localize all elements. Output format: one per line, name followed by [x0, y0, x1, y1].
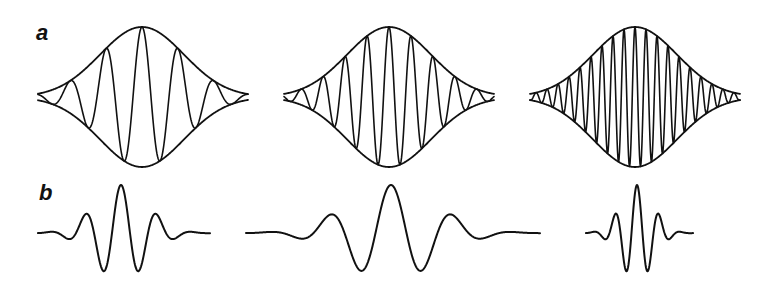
panel-label-b: b	[39, 182, 52, 204]
panel-a-envelope-lower-2	[284, 100, 494, 167]
panel-a-wave-packets	[38, 27, 740, 167]
panel-a-wave-1	[38, 27, 248, 161]
wave-packet-figure: a b	[0, 0, 773, 297]
panel-a-envelope-lower-1	[38, 100, 248, 167]
panel-b-wave-3	[586, 185, 693, 271]
panel-a-envelope-lower-3	[530, 100, 740, 167]
panel-a-wave-2	[284, 27, 494, 165]
panel-b-wave-1	[38, 185, 210, 271]
panel-b-wavelets	[38, 185, 693, 271]
wave-plot-canvas	[0, 0, 773, 297]
panel-a-envelope-upper-3	[530, 27, 740, 94]
panel-a-wave-3	[530, 27, 740, 166]
panel-b-wave-2	[246, 185, 540, 271]
panel-label-a: a	[36, 22, 48, 44]
panel-a-envelope-upper-2	[284, 27, 494, 94]
